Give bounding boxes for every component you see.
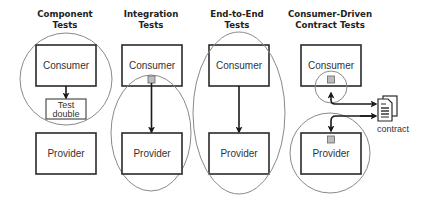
column-title-line1: Component	[37, 9, 92, 19]
column-integration-tests: Integration Tests Consumer Provider	[111, 9, 191, 191]
column-title-line1: Integration	[124, 9, 179, 19]
column-title-line1: Consumer-Driven	[288, 9, 372, 19]
provider-label: Provider	[47, 148, 85, 159]
column-title-line2: Contract Tests	[295, 20, 365, 30]
document-stack-icon	[378, 96, 397, 121]
arrow-contract-to-provider	[331, 116, 376, 131]
provider-port	[328, 136, 335, 143]
column-component-tests: Component Tests Consumer Test double Pro…	[20, 9, 112, 174]
consumer-label: Consumer	[216, 60, 263, 71]
column-title-line2: Tests	[139, 20, 164, 30]
column-title-line1: End-to-End	[210, 9, 263, 19]
consumer-label: Consumer	[43, 60, 90, 71]
consumer-port	[328, 76, 335, 83]
column-end-to-end-tests: End-to-End Tests Consumer Provider	[193, 9, 285, 194]
consumer-label: Consumer	[129, 60, 176, 71]
provider-label: Provider	[133, 148, 171, 159]
column-title-line2: Tests	[53, 20, 78, 30]
consumer-port	[148, 76, 155, 83]
consumer-label: Consumer	[308, 60, 355, 71]
provider-label: Provider	[220, 148, 258, 159]
provider-label: Provider	[312, 148, 350, 159]
column-title-line2: Tests	[225, 20, 250, 30]
test-double-label-line2: double	[52, 109, 79, 119]
column-consumer-driven-contract-tests: Consumer-Driven Contract Tests Consumer …	[288, 9, 410, 193]
contract-label: contract	[377, 124, 410, 134]
testing-types-diagram: Component Tests Consumer Test double Pro…	[0, 0, 429, 206]
